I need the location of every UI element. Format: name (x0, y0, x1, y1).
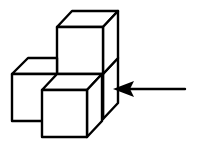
front-cube (42, 74, 102, 137)
left-cube-top-face (12, 58, 57, 74)
top-cube-front-face (57, 27, 103, 74)
front-cube-front-face (42, 90, 87, 137)
cube-assembly-diagram (0, 0, 197, 149)
top-cube (57, 11, 118, 74)
view-direction-arrow (113, 81, 185, 97)
